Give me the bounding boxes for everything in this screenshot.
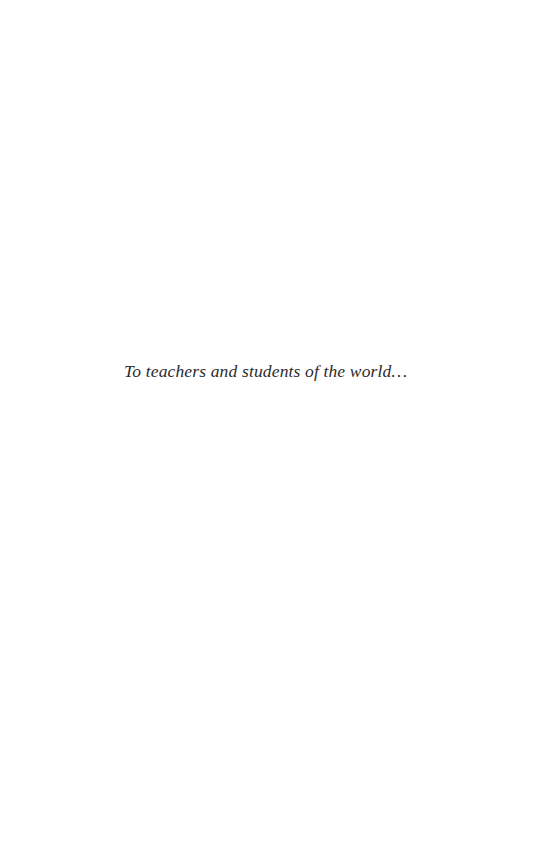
dedication-text: To teachers and students of the world… bbox=[124, 360, 424, 382]
book-page: To teachers and students of the world… bbox=[0, 0, 560, 861]
